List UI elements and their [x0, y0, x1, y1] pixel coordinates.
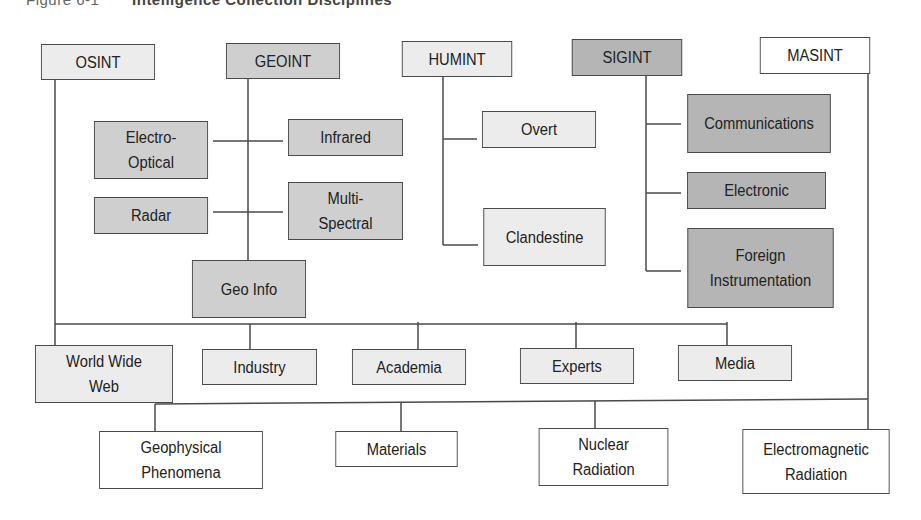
- node-world-wide-web: World Wide Web: [35, 345, 173, 403]
- node-communications: Communications: [687, 94, 831, 153]
- node-experts: Experts: [520, 348, 634, 384]
- node-industry: Industry: [202, 349, 317, 385]
- node-humint: HUMINT: [402, 41, 512, 77]
- node-academia: Academia: [352, 349, 466, 385]
- node-radar: Radar: [94, 197, 208, 234]
- node-geo-info: Geo Info: [192, 260, 306, 318]
- node-electronic: Electronic: [687, 172, 826, 209]
- masint-bus-line: [155, 399, 868, 404]
- node-infrared: Infrared: [288, 119, 403, 156]
- node-overt: Overt: [482, 111, 596, 148]
- node-multi-spectral: Multi- Spectral: [288, 182, 403, 240]
- node-media: Media: [678, 345, 792, 381]
- node-geoint: GEOINT: [226, 43, 340, 79]
- node-materials: Materials: [335, 431, 457, 467]
- node-osint: OSINT: [41, 44, 155, 80]
- node-nuclear-radiation: Nuclear Radiation: [539, 428, 669, 486]
- node-clandestine: Clandestine: [483, 208, 605, 266]
- node-foreign-instrumentation: Foreign Instrumentation: [687, 228, 833, 308]
- node-geophysical-phenomena: Geophysical Phenomena: [99, 431, 263, 489]
- node-electromagnetic-radiation: Electromagnetic Radiation: [742, 429, 889, 494]
- node-electro-optical: Electro- Optical: [94, 121, 208, 179]
- node-masint: MASINT: [760, 37, 870, 74]
- node-sigint: SIGINT: [572, 39, 682, 76]
